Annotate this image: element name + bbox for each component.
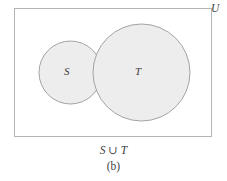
venn-diagram-figure: U S T S ∪ T (b)	[0, 0, 227, 181]
universe-label: U	[211, 3, 219, 15]
caption-expression: S ∪ T	[0, 143, 227, 157]
set-t-label: T	[135, 66, 141, 77]
set-t-circle	[93, 24, 190, 121]
caption-index: (b)	[0, 160, 227, 172]
set-s-label: S	[64, 66, 70, 77]
